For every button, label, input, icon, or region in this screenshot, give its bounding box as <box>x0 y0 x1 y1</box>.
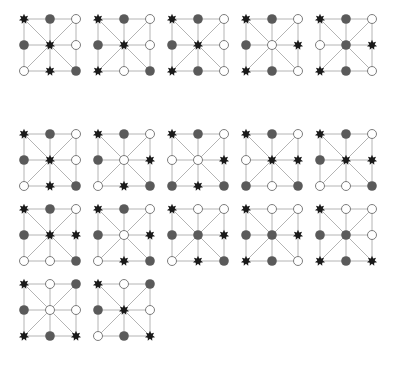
gray-piece-icon <box>45 14 55 24</box>
empty-point-icon <box>168 257 177 266</box>
empty-point-icon <box>46 306 55 315</box>
empty-point-icon <box>20 182 29 191</box>
empty-point-icon <box>294 67 303 76</box>
empty-point-icon <box>20 67 29 76</box>
gray-piece-icon <box>19 305 29 315</box>
gray-piece-icon <box>119 331 129 341</box>
gray-piece-icon <box>93 155 103 165</box>
gray-piece-icon <box>367 181 377 191</box>
empty-point-icon <box>120 67 129 76</box>
empty-point-icon <box>72 156 81 165</box>
gray-piece-icon <box>45 129 55 139</box>
gray-piece-icon <box>71 256 81 266</box>
empty-point-icon <box>120 156 129 165</box>
gray-piece-icon <box>219 256 229 266</box>
empty-point-icon <box>294 15 303 24</box>
game-board <box>20 205 80 265</box>
board-diagram <box>20 205 80 265</box>
board-diagram <box>316 15 376 75</box>
gray-piece-icon <box>167 40 177 50</box>
gray-piece-icon <box>45 204 55 214</box>
gray-piece-icon <box>145 256 155 266</box>
gray-piece-icon <box>19 155 29 165</box>
gray-piece-icon <box>267 230 277 240</box>
gray-piece-icon <box>119 129 129 139</box>
empty-point-icon <box>368 205 377 214</box>
gray-piece-icon <box>341 129 351 139</box>
empty-point-icon <box>72 306 81 315</box>
gray-piece-icon <box>241 40 251 50</box>
gray-piece-icon <box>193 14 203 24</box>
empty-point-icon <box>368 231 377 240</box>
gray-piece-icon <box>341 256 351 266</box>
gray-piece-icon <box>267 256 277 266</box>
gray-piece-icon <box>315 155 325 165</box>
empty-point-icon <box>220 205 229 214</box>
empty-point-icon <box>220 67 229 76</box>
gray-piece-icon <box>341 66 351 76</box>
gray-piece-icon <box>193 230 203 240</box>
empty-point-icon <box>220 130 229 139</box>
gray-piece-icon <box>145 279 155 289</box>
game-board <box>94 15 154 75</box>
empty-point-icon <box>72 41 81 50</box>
empty-point-icon <box>368 15 377 24</box>
board-diagram <box>168 15 228 75</box>
gray-piece-icon <box>341 230 351 240</box>
empty-point-icon <box>316 41 325 50</box>
board-diagram <box>168 205 228 265</box>
game-board <box>168 130 228 190</box>
empty-point-icon <box>194 156 203 165</box>
empty-point-icon <box>72 15 81 24</box>
gray-piece-icon <box>167 230 177 240</box>
gray-piece-icon <box>45 331 55 341</box>
board-diagram <box>94 205 154 265</box>
empty-point-icon <box>94 257 103 266</box>
board-diagram <box>316 205 376 265</box>
game-board <box>316 130 376 190</box>
gray-piece-icon <box>193 129 203 139</box>
empty-point-icon <box>316 182 325 191</box>
empty-point-icon <box>120 280 129 289</box>
game-board <box>94 280 154 340</box>
empty-point-icon <box>342 205 351 214</box>
empty-point-icon <box>294 130 303 139</box>
empty-point-icon <box>268 205 277 214</box>
game-board <box>20 15 80 75</box>
board-diagram <box>316 130 376 190</box>
empty-point-icon <box>72 130 81 139</box>
gray-piece-icon <box>71 181 81 191</box>
gray-piece-icon <box>315 230 325 240</box>
gray-piece-icon <box>93 305 103 315</box>
empty-point-icon <box>220 41 229 50</box>
empty-point-icon <box>268 41 277 50</box>
gray-piece-icon <box>71 279 81 289</box>
gray-piece-icon <box>119 204 129 214</box>
empty-point-icon <box>294 205 303 214</box>
gray-piece-icon <box>119 14 129 24</box>
empty-point-icon <box>94 332 103 341</box>
gray-piece-icon <box>93 230 103 240</box>
gray-piece-icon <box>267 66 277 76</box>
empty-point-icon <box>146 306 155 315</box>
board-diagram <box>20 280 80 340</box>
board-diagram <box>242 205 302 265</box>
gray-piece-icon <box>219 181 229 191</box>
gray-piece-icon <box>167 181 177 191</box>
game-board <box>20 130 80 190</box>
game-board <box>316 205 376 265</box>
gray-piece-icon <box>341 40 351 50</box>
empty-point-icon <box>342 182 351 191</box>
game-board <box>94 205 154 265</box>
gray-piece-icon <box>19 40 29 50</box>
board-diagram <box>94 15 154 75</box>
board-diagram <box>20 15 80 75</box>
empty-point-icon <box>168 156 177 165</box>
gray-piece-icon <box>19 230 29 240</box>
game-board <box>168 15 228 75</box>
empty-point-icon <box>268 182 277 191</box>
empty-point-icon <box>94 182 103 191</box>
empty-point-icon <box>368 67 377 76</box>
gray-piece-icon <box>71 66 81 76</box>
empty-point-icon <box>46 257 55 266</box>
